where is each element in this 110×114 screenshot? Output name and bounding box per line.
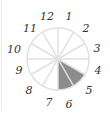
label-3: 3 bbox=[94, 43, 101, 54]
label-1: 1 bbox=[66, 11, 73, 22]
label-8: 8 bbox=[26, 85, 33, 96]
clock-circle bbox=[0, 0, 110, 114]
label-12: 12 bbox=[40, 11, 54, 22]
label-2: 2 bbox=[83, 23, 90, 34]
label-5: 5 bbox=[86, 85, 93, 96]
label-9: 9 bbox=[16, 65, 23, 76]
label-6: 6 bbox=[66, 99, 73, 110]
label-10: 10 bbox=[7, 44, 21, 55]
clock-diagram: 12 1 2 3 4 5 6 7 8 9 10 11 bbox=[0, 0, 110, 114]
label-7: 7 bbox=[46, 97, 53, 108]
label-11: 11 bbox=[23, 23, 37, 34]
label-4: 4 bbox=[95, 65, 102, 76]
